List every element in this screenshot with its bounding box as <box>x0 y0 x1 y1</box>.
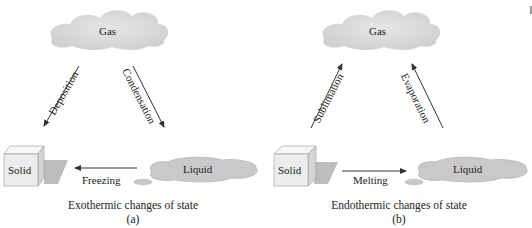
panel-b-sublabel: (b) <box>266 213 532 225</box>
melting-label: Melting <box>353 174 388 186</box>
panel-a-sublabel: (a) <box>0 213 266 225</box>
panel-endothermic: Gas Sublimation Evaporation Solid Liquid… <box>266 0 532 228</box>
liquid-label: Liquid <box>183 163 212 175</box>
panel-b-caption: Endothermic changes of state <box>266 199 532 211</box>
solid-label: Solid <box>278 164 301 176</box>
freezing-label: Freezing <box>82 174 120 186</box>
panel-exothermic: Gas Deposition Condensation Solid Liquid… <box>0 0 266 228</box>
gas-label: Gas <box>369 25 386 37</box>
panel-b-graphics <box>266 0 532 228</box>
solid-label: Solid <box>8 164 31 176</box>
panel-a-caption: Exothermic changes of state <box>0 199 266 211</box>
gas-label: Gas <box>99 25 116 37</box>
liquid-label: Liquid <box>453 163 482 175</box>
panel-a-graphics <box>0 0 266 228</box>
